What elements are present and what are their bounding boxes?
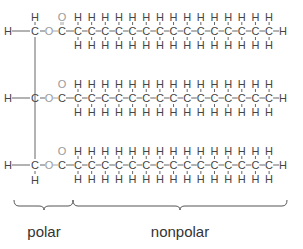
carbonyl-carbon: C	[58, 159, 66, 171]
chain-carbon: C	[238, 159, 246, 171]
chain-carbon: C	[170, 92, 178, 104]
chain-hydrogen-top: H	[156, 78, 164, 90]
chain-hydrogen-bottom: H	[88, 106, 96, 118]
chain-hydrogen-bottom: H	[156, 106, 164, 118]
nonpolar-label: nonpolar	[151, 223, 209, 240]
chain-hydrogen-bottom: H	[129, 39, 137, 51]
chain-carbon: C	[224, 25, 232, 37]
chain-carbon: C	[156, 92, 164, 104]
chain-hydrogen-top: H	[170, 11, 178, 23]
chain-hydrogen-top: H	[115, 78, 123, 90]
chain-carbon: C	[197, 92, 205, 104]
chain-hydrogen-bottom: H	[211, 106, 219, 118]
chain-carbon: C	[74, 159, 82, 171]
chain-hydrogen-top: H	[251, 145, 259, 157]
chain-carbon: C	[265, 25, 273, 37]
chain-hydrogen-top: H	[238, 145, 246, 157]
chain-carbon: C	[211, 159, 219, 171]
chain-hydrogen-bottom: H	[183, 39, 191, 51]
chain-hydrogen-bottom: H	[115, 106, 123, 118]
glycerol-top-hydrogen: H	[31, 11, 39, 23]
chain-hydrogen-top: H	[251, 78, 259, 90]
chain-hydrogen-top: H	[129, 78, 137, 90]
chain-hydrogen-top: H	[88, 11, 96, 23]
chain-hydrogen-top: H	[101, 11, 109, 23]
chain-hydrogen-top: H	[115, 145, 123, 157]
chain-hydrogen-bottom: H	[170, 39, 178, 51]
chain-hydrogen-top: H	[238, 78, 246, 90]
ester-oxygen: O	[45, 92, 54, 104]
chain-carbon: C	[251, 25, 259, 37]
chain-hydrogen-top: H	[238, 11, 246, 23]
polar-brace	[14, 200, 73, 210]
chain-hydrogen-top: H	[74, 11, 82, 23]
chain-hydrogen-bottom: H	[211, 173, 219, 185]
chain-hydrogen-bottom: H	[197, 39, 205, 51]
chain-carbon: C	[224, 92, 232, 104]
chain-carbon: C	[129, 159, 137, 171]
chain-hydrogen-top: H	[211, 145, 219, 157]
chain-carbon: C	[88, 92, 96, 104]
glycerol-left-hydrogen: H	[4, 25, 12, 37]
chain-carbon: C	[129, 92, 137, 104]
chain-hydrogen-bottom: H	[197, 173, 205, 185]
chain-hydrogen-bottom: H	[88, 39, 96, 51]
chain-hydrogen-bottom: H	[129, 173, 137, 185]
chain-carbon: C	[183, 92, 191, 104]
chain-hydrogen-top: H	[183, 78, 191, 90]
ester-oxygen: O	[45, 25, 54, 37]
chain-carbon: C	[88, 159, 96, 171]
chain-hydrogen-top: H	[129, 11, 137, 23]
chain-carbon: C	[115, 25, 123, 37]
chain-carbon: C	[101, 25, 109, 37]
chain-carbon: C	[197, 159, 205, 171]
glycerol-left-hydrogen: H	[4, 92, 12, 104]
chain-carbon: C	[74, 25, 82, 37]
glycerol-carbon: C	[31, 92, 39, 104]
chain-carbon: C	[101, 159, 109, 171]
chain-hydrogen-bottom: H	[101, 173, 109, 185]
chain-hydrogen-bottom: H	[251, 39, 259, 51]
chain-carbon: C	[238, 92, 246, 104]
chain-hydrogen-bottom: H	[224, 173, 232, 185]
carbonyl-oxygen: O	[58, 145, 67, 157]
chain-hydrogen-bottom: H	[156, 173, 164, 185]
region-braces	[14, 200, 287, 210]
region-labels: polar nonpolar	[27, 223, 209, 240]
chain-hydrogen-top: H	[101, 78, 109, 90]
chain-hydrogen-top: H	[224, 11, 232, 23]
chain-hydrogen-bottom: H	[265, 106, 273, 118]
carbonyl-carbon: C	[58, 92, 66, 104]
chain-hydrogen-bottom: H	[142, 39, 150, 51]
chain-hydrogen-top: H	[74, 145, 82, 157]
chain-hydrogen-bottom: H	[74, 106, 82, 118]
chain-hydrogen-top: H	[197, 145, 205, 157]
chain-carbon: C	[183, 25, 191, 37]
carbonyl-carbon: C	[58, 25, 66, 37]
chain-hydrogen-top: H	[183, 11, 191, 23]
chain-carbon: C	[142, 92, 150, 104]
chain-hydrogen-bottom: H	[115, 39, 123, 51]
chain-hydrogen-bottom: H	[88, 173, 96, 185]
chain-hydrogen-top: H	[156, 145, 164, 157]
chain-carbon: C	[156, 159, 164, 171]
terminal-hydrogen: H	[279, 92, 287, 104]
glycerol-bottom-hydrogen: H	[31, 174, 39, 186]
chain-hydrogen-bottom: H	[115, 173, 123, 185]
chain-carbon: C	[251, 92, 259, 104]
chain-hydrogen-bottom: H	[129, 106, 137, 118]
chain-hydrogen-top: H	[251, 11, 259, 23]
carbonyl-oxygen: O	[58, 11, 67, 23]
chain-hydrogen-bottom: H	[142, 106, 150, 118]
chain-hydrogen-top: H	[170, 78, 178, 90]
chain-hydrogen-top: H	[156, 11, 164, 23]
chain-hydrogen-top: H	[224, 78, 232, 90]
chain-carbon: C	[88, 25, 96, 37]
chain-carbon: C	[265, 159, 273, 171]
chain-carbon: C	[251, 159, 259, 171]
glycerol-carbon: C	[31, 159, 39, 171]
chain-hydrogen-bottom: H	[197, 106, 205, 118]
chain-hydrogen-top: H	[74, 78, 82, 90]
chain-carbon: C	[183, 159, 191, 171]
chain-hydrogen-top: H	[265, 145, 273, 157]
